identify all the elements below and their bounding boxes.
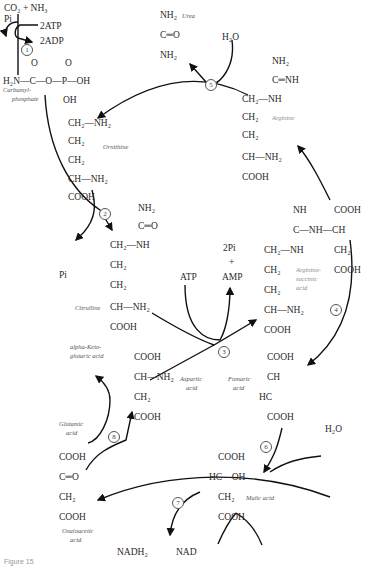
argsucc-cooh-top: COOH: [334, 205, 361, 215]
argsucc-ch2-1: CH₂: [264, 265, 281, 275]
oxaloacetic-co: C═O: [59, 472, 79, 482]
aspartic-chnh2: CH—NH₂: [134, 372, 174, 382]
citrulline-ch2nh: CH₂—NH: [110, 240, 150, 250]
carbamyl-phosphate-label-2: phosphate: [12, 95, 39, 103]
fumaric-ch: CH: [267, 372, 280, 382]
arginine-ch2-1: CH₂: [242, 112, 259, 122]
oxaloacetic-label-2: acid: [70, 536, 81, 544]
pi-product-2: Pi: [59, 270, 67, 280]
argsucc-ch2nh: CH₂—NH: [264, 245, 304, 255]
malic-ch2: CH₂: [218, 492, 235, 502]
argsucc-c-nh-ch: C—NH—CH: [293, 225, 345, 235]
urea-label: Urea: [182, 12, 195, 20]
step-6-marker: 6: [260, 441, 272, 453]
step-5-marker: 5: [205, 79, 217, 91]
ornithine-ch2-1: CH₂: [68, 136, 85, 146]
step-1-marker: 1: [21, 44, 33, 56]
arginine-chnh2: CH—NH₂: [242, 152, 282, 162]
pi-product-1: Pi: [4, 14, 12, 24]
carbamyl-formula: H₂N—C—O—P—OH: [3, 76, 90, 86]
oxaloacetic-cooh-top: COOH: [59, 452, 86, 462]
ornithine-ch2-2: CH₂: [68, 155, 85, 165]
citrulline-cooh: COOH: [110, 322, 137, 332]
aspartic-cooh-bottom: COOH: [134, 412, 161, 422]
fumaric-cooh-bottom: COOH: [267, 412, 294, 422]
carbamyl-o2: O: [65, 58, 72, 68]
malic-cooh-bottom: COOH: [218, 512, 245, 522]
step-7-marker: 7: [172, 497, 184, 509]
step-4-marker: 4: [330, 304, 342, 316]
alpha-ketoglutaric-label-2: glutaric acid: [70, 352, 103, 360]
ornithine-chnh2: CH—NH₂: [68, 174, 108, 184]
adp-product-1: 2ADP: [40, 36, 64, 46]
carbamyl-oh: OH: [63, 95, 77, 105]
step-3-marker: 3: [218, 346, 230, 358]
fumaric-hc: HC: [259, 392, 272, 402]
urea-nh2-bottom: NH₂: [160, 50, 177, 60]
argsucc-cooh-right: COOH: [334, 265, 361, 275]
malic-hcoh: HC—OH: [209, 472, 245, 482]
step-8-marker: 8: [108, 431, 120, 443]
step-2-marker: 2: [99, 208, 111, 220]
citrulline-nh2: NH₂: [138, 203, 155, 213]
co2-nh3-inputs: CO₂ + NH₃: [4, 3, 48, 13]
amp-product: AMP: [222, 272, 243, 282]
aspartic-cooh-top: COOH: [134, 352, 161, 362]
figure-caption: Figure 15: [4, 558, 34, 565]
argsucc-label-1: Arginino-: [296, 266, 321, 274]
argsucc-label-3: acid: [296, 284, 307, 292]
nad-input: NAD: [176, 547, 197, 557]
argsucc-chnh2: CH—NH₂: [264, 305, 304, 315]
fumaric-label-2: acid: [233, 384, 244, 392]
nadh2-product: NADH₂: [117, 547, 148, 557]
atp-input-1: 2ATP: [40, 21, 62, 31]
alpha-ketoglutaric-label-1: alpha-Keto-: [70, 343, 101, 351]
argsucc-ch2-2: CH₂: [264, 285, 281, 295]
argsucc-label-2: succinic: [296, 275, 317, 283]
arginine-cnh: C═NH: [272, 75, 299, 85]
water-step-6: H₂O: [325, 424, 342, 434]
ornithine-cooh: COOH: [68, 192, 95, 202]
citrulline-ch2-1: CH₂: [110, 260, 127, 270]
glutamic-label-1: Glutamic: [59, 420, 83, 428]
oxaloacetic-cooh-bottom: COOH: [59, 512, 86, 522]
citrulline-label: Citrulline: [75, 304, 100, 312]
pi2-product: 2Pi: [223, 243, 236, 253]
oxaloacetic-label-1: Oxaloacetic: [62, 527, 93, 535]
fumaric-cooh-top: COOH: [267, 352, 294, 362]
aspartic-ch2: CH₂: [134, 392, 151, 402]
ornithine-label: Ornithine: [103, 143, 128, 151]
citrulline-chnh2: CH—NH₂: [110, 302, 150, 312]
aspartic-label-2: acid: [186, 384, 197, 392]
atp-input-3: ATP: [180, 272, 197, 282]
arginine-cooh: COOH: [242, 172, 269, 182]
citrulline-ch2-2: CH₂: [110, 280, 127, 290]
plus-sign: +: [229, 257, 234, 267]
urea-co: C═O: [160, 30, 180, 40]
arginine-nh2: NH₂: [272, 56, 289, 66]
arginine-label: Arginine: [272, 114, 295, 122]
glutamic-label-2: acid: [66, 429, 77, 437]
argsucc-nh: NH: [293, 205, 307, 215]
oxaloacetic-ch2: CH₂: [59, 492, 76, 502]
ornithine-ch2nh2: CH₂—NH₂: [68, 118, 111, 128]
fumaric-label-1: Fumaric: [228, 375, 250, 383]
arginine-ch2-2: CH₂: [242, 130, 259, 140]
carbamyl-phosphate-label-1: Carbamyl-: [3, 86, 31, 94]
water-step-5: H₂O: [222, 32, 239, 42]
malic-label: Malic acid: [246, 494, 274, 502]
aspartic-label-1: Aspartic: [180, 375, 202, 383]
malic-cooh-top: COOH: [218, 452, 245, 462]
urea-nh2-top: NH₂: [160, 10, 177, 20]
argsucc-ch2-right: CH₂: [334, 245, 351, 255]
argsucc-cooh: COOH: [264, 325, 291, 335]
citrulline-co: C═O: [138, 221, 158, 231]
arginine-ch2nh: CH₂—NH: [242, 94, 282, 104]
carbamyl-o1: O: [31, 58, 38, 68]
